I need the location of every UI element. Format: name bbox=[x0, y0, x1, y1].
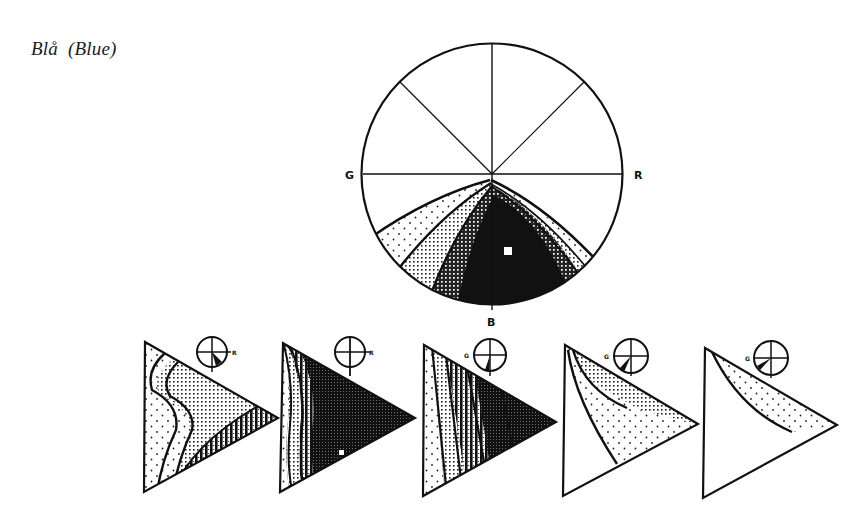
diagonal-left bbox=[400, 82, 492, 174]
label-r: R bbox=[634, 169, 643, 182]
indicator-label-4: G bbox=[604, 353, 609, 360]
indicator-label-2: R bbox=[369, 349, 374, 356]
label-g: G bbox=[345, 169, 354, 182]
indicator-circle-2: R bbox=[335, 337, 374, 376]
indicator-label-1: R bbox=[232, 349, 237, 356]
indicator-circle-4: G bbox=[604, 339, 648, 376]
color-diagram: G R B R bbox=[0, 0, 864, 528]
main-color-circle: G R B bbox=[345, 43, 643, 329]
indicator-circle-5: G bbox=[745, 341, 788, 378]
indicator-circle-3: G bbox=[464, 339, 507, 376]
white-square-marker bbox=[504, 247, 512, 255]
indicator-label-5: G bbox=[745, 355, 750, 362]
label-b: B bbox=[487, 316, 495, 329]
indicator-circle-1: R bbox=[197, 337, 237, 372]
indicator-label-3: G bbox=[464, 352, 469, 359]
diagonal-right bbox=[492, 82, 584, 174]
